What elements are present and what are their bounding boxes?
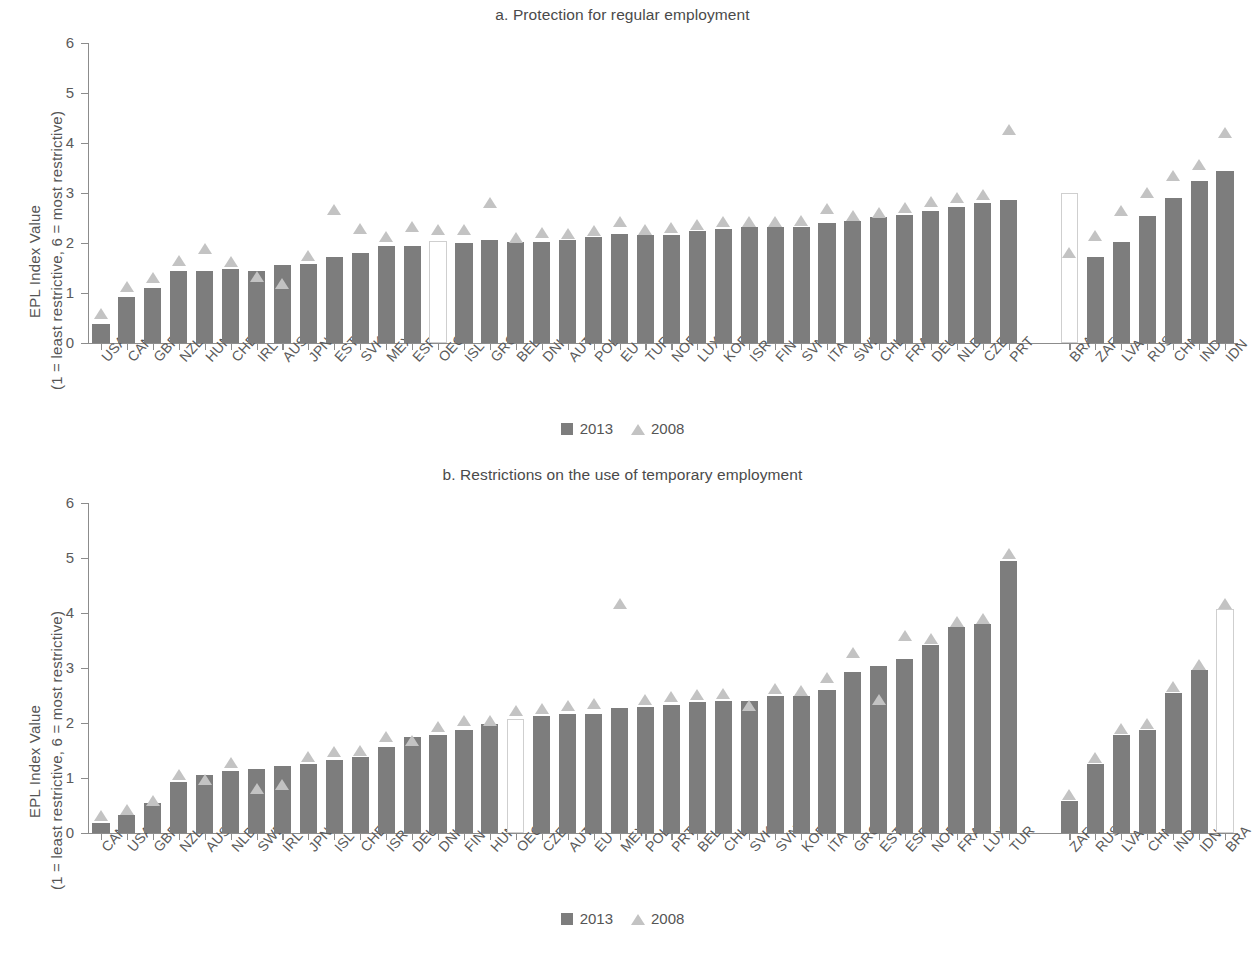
- y-tick-mark: [81, 143, 88, 144]
- y-tick-mark: [81, 93, 88, 94]
- marker-2008-mex: [379, 231, 393, 242]
- bar-2013-lva: [1113, 242, 1130, 343]
- marker-2008-lva: [1114, 205, 1128, 216]
- bar-group: [300, 503, 317, 833]
- bar-group: [948, 43, 965, 343]
- legend-item-2013: 2013: [561, 420, 613, 437]
- bar-group: [844, 503, 861, 833]
- bar-2013-chl: [715, 701, 732, 833]
- marker-2008-nor: [924, 633, 938, 644]
- bar-group: [1139, 43, 1156, 343]
- bar-group: [326, 43, 343, 343]
- marker-2008-esp: [898, 630, 912, 641]
- bar-group: [767, 503, 784, 833]
- bar-2013-nzl: [170, 271, 187, 343]
- chart-panel-a: a. Protection for regular employment EPL…: [0, 0, 1245, 460]
- bar-group: [196, 43, 213, 343]
- marker-2008-aus: [198, 774, 212, 785]
- marker-2008-che: [353, 745, 367, 756]
- bar-2013-svn: [793, 227, 810, 343]
- bar-2013-nor: [922, 645, 939, 833]
- bar-2013-rus: [1139, 216, 1156, 344]
- y-tick-mark: [81, 778, 88, 779]
- bar-2013-can: [118, 297, 135, 343]
- bar-group: [844, 43, 861, 343]
- bar-2013-gbr: [144, 288, 161, 343]
- marker-2008-isr: [742, 216, 756, 227]
- legend-label: 2008: [651, 910, 684, 927]
- bar-2013-isl: [326, 760, 343, 833]
- bar-group: [300, 43, 317, 343]
- bar-group: [455, 43, 472, 343]
- bar-group: [429, 43, 446, 343]
- marker-2008-fin: [457, 715, 471, 726]
- bar-2013-ind: [1191, 181, 1208, 343]
- marker-2008-usa: [94, 308, 108, 319]
- bar-2013-dnk: [429, 735, 446, 833]
- bar-2013-est: [326, 257, 343, 344]
- bar-group: [1216, 43, 1233, 343]
- bar-group: [92, 503, 109, 833]
- bar-group: [222, 503, 239, 833]
- marker-2008-ind: [1192, 159, 1206, 170]
- bar-group: [1191, 503, 1208, 833]
- bar-2013-prt: [1000, 200, 1017, 344]
- bar-group: [222, 43, 239, 343]
- bar-2013-fra: [896, 215, 913, 344]
- bar-group: [507, 503, 524, 833]
- bar-2013-esp: [896, 659, 913, 833]
- bar-2013-deu: [404, 737, 421, 833]
- marker-2008-isl: [457, 224, 471, 235]
- marker-2008-ita: [820, 672, 834, 683]
- bar-2013-chn: [1139, 730, 1156, 833]
- panel-a-legend: 20132008: [0, 418, 1245, 437]
- bar-group: [818, 503, 835, 833]
- bar-2013-rus: [1087, 764, 1104, 833]
- bar-group: [352, 43, 369, 343]
- marker-2008-irl: [250, 271, 264, 282]
- bar-group: [818, 43, 835, 343]
- bar-group: [611, 43, 628, 343]
- y-axis-title-line2: (1 = least restrictive, 6 = most restric…: [48, 611, 65, 890]
- y-tick-label: 4: [48, 605, 74, 620]
- y-tick-mark: [81, 833, 88, 834]
- bar-2013-irl: [274, 766, 291, 833]
- marker-2008-svn: [768, 683, 782, 694]
- bar-group: [715, 503, 732, 833]
- bar-group: [1000, 503, 1017, 833]
- bar-2013-pol: [585, 237, 602, 344]
- bar-2013-jpn: [300, 264, 317, 343]
- marker-2008-nor: [664, 222, 678, 233]
- legend-item-2008: 2008: [631, 910, 684, 927]
- panel-b-plot-area: 0123456CANUSAGBRNZLAUSNLDSWEIRLJPNISLCHE…: [88, 503, 1238, 833]
- panel-a-plot-area: 0123456USACANGBRNZLHUNCHEIRLAUSJPNESTSVK…: [88, 43, 1238, 343]
- marker-2008-fin: [768, 216, 782, 227]
- marker-2008-deu: [405, 735, 419, 746]
- marker-2008-eu: [587, 698, 601, 709]
- bar-group: [533, 43, 550, 343]
- bar-group: [274, 43, 291, 343]
- bar-group: [481, 503, 498, 833]
- bar-2013-zaf: [1087, 257, 1104, 343]
- bar-group: [1113, 43, 1130, 343]
- bar-group: [559, 503, 576, 833]
- legend-square-icon: [561, 423, 573, 435]
- marker-2008-irl: [275, 779, 289, 790]
- bar-2013-lux: [974, 624, 991, 833]
- marker-2008-can: [120, 281, 134, 292]
- bar-group: [974, 43, 991, 343]
- bar-group: [585, 43, 602, 343]
- bar-2013-usa: [92, 324, 109, 344]
- marker-2008-cze: [535, 703, 549, 714]
- chart-panel-b: b. Restrictions on the use of temporary …: [0, 460, 1245, 979]
- bar-group: [248, 43, 265, 343]
- bar-2013-ita: [818, 223, 835, 343]
- marker-2008-nzl: [172, 255, 186, 266]
- bar-2013-swe: [844, 221, 861, 343]
- bar-2013-oecd: [429, 241, 446, 343]
- marker-2008-idn: [1192, 659, 1206, 670]
- bar-group: [352, 503, 369, 833]
- bar-2013-hun: [481, 724, 498, 833]
- bar-2013-che: [352, 757, 369, 833]
- marker-2008-isr: [379, 731, 393, 742]
